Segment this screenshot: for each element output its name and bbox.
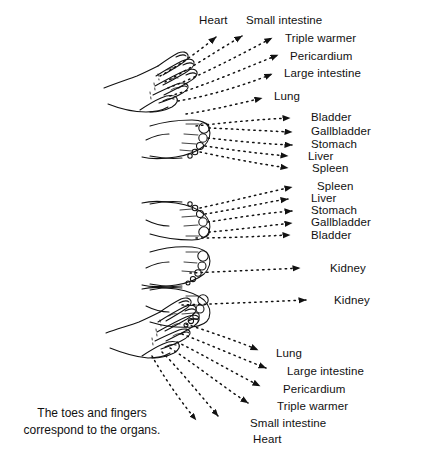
leader-gallbladder-2: [209, 223, 292, 232]
foot-kidney-upper-drawing: [142, 247, 210, 287]
leader-stomach-1: [208, 138, 292, 145]
foot-upper-drawing: [142, 120, 210, 159]
label-triple-warmer-bottom: Triple warmer: [277, 400, 348, 413]
leader-liver-1: [205, 146, 288, 156]
leader-bladder-1: [196, 118, 290, 126]
label-triple-warmer-top: Triple warmer: [285, 32, 356, 45]
bottom-hand-leaders: [152, 324, 266, 420]
leader-large-intestine: [178, 74, 272, 101]
label-kidney-1: Kidney: [330, 262, 366, 275]
label-spleen-1: Spleen: [312, 162, 348, 175]
label-bladder-1: Bladder: [311, 111, 351, 124]
feet-leaders: [196, 118, 292, 238]
leader-spleen-2: [200, 187, 292, 208]
label-pericardium-top: Pericardium: [290, 50, 352, 63]
label-lung-top: Lung: [274, 90, 300, 103]
leader-gallbladder-1: [209, 128, 292, 132]
label-pericardium-bottom: Pericardium: [283, 383, 345, 396]
anatomy-diagram: [0, 0, 425, 469]
top-hand-leaders: [160, 36, 278, 114]
leader-kidney-2: [182, 300, 306, 305]
leader-triple-warmer: [168, 38, 272, 88]
bottom-hand-drawing: [106, 298, 199, 358]
leader-lung: [186, 98, 262, 114]
caption-line-1: The toes and fingers: [18, 405, 166, 422]
leader-stomach-2: [208, 211, 292, 222]
foot-lower-drawing: [142, 202, 210, 241]
kidney-leaders: [182, 268, 306, 305]
label-large-intestine-top: Large intestine: [284, 67, 361, 80]
label-gallbladder-1: Gallbladder: [311, 125, 371, 138]
label-gallbladder-2: Gallbladder: [311, 216, 371, 229]
figure-page: Heart Small intestine Triple warmer Peri…: [0, 0, 425, 469]
leader-triple-warmer-b: [170, 348, 248, 403]
label-bladder-2: Bladder: [311, 229, 351, 242]
leader-spleen-1: [200, 152, 288, 168]
label-small-intestine-top: Small intestine: [246, 14, 322, 27]
leader-lung-b: [186, 324, 258, 350]
label-large-intestine-bottom: Large intestine: [287, 365, 364, 378]
leader-liver-2: [205, 199, 288, 214]
leader-large-intestine-b: [182, 334, 266, 368]
label-kidney-2: Kidney: [334, 294, 370, 307]
caption-line-2: correspond to the organs.: [12, 422, 172, 439]
label-heart-bottom: Heart: [253, 433, 282, 446]
label-heart-top: Heart: [199, 14, 228, 27]
leader-bladder-2: [196, 235, 290, 238]
label-lung-bottom: Lung: [276, 347, 302, 360]
label-small-intestine-bottom: Small intestine: [250, 417, 326, 430]
